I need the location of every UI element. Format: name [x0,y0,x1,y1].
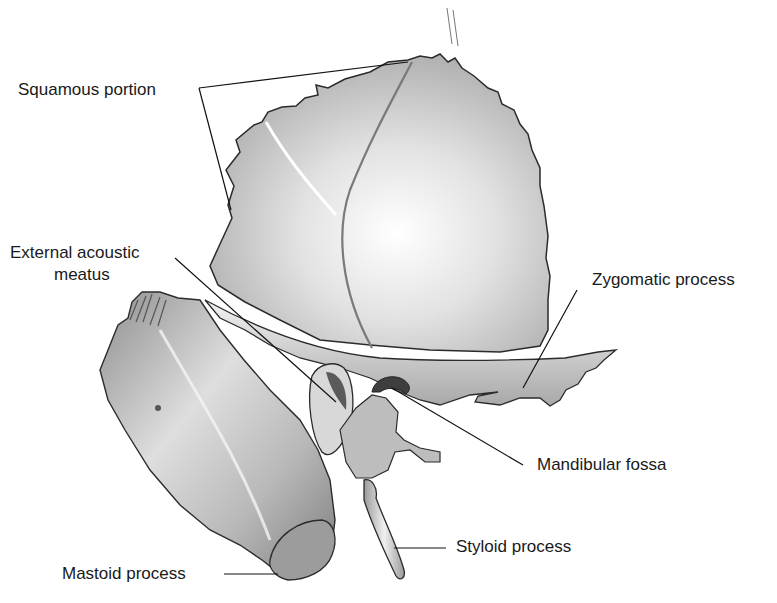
styloid-process-shape [364,480,404,579]
label-external-acoustic-line2: meatus [54,265,110,285]
label-squamous-portion: Squamous portion [18,80,156,100]
leader-squamous-bottom [199,88,231,210]
label-external-acoustic-line1: External acoustic [10,243,139,263]
label-mastoid-process: Mastoid process [62,564,186,584]
label-zygomatic-process: Zygomatic process [592,270,735,290]
mastoid-foramen [155,405,161,411]
squamous-portion-shape [210,54,550,352]
label-styloid-process: Styloid process [456,537,571,557]
temporal-bone-diagram: Squamous portion External acoustic meatu… [0,0,777,603]
label-mandibular-fossa: Mandibular fossa [537,455,666,475]
stray-marks [447,8,458,46]
